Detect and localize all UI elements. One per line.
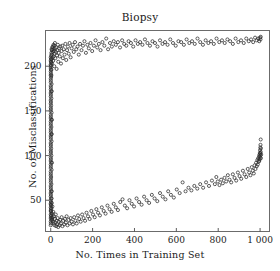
data-point [107,48,110,51]
data-point [76,45,79,48]
data-point [156,45,159,48]
data-point [119,200,122,203]
data-point [110,210,113,213]
data-point [68,41,71,44]
data-point [83,40,86,43]
data-point [87,47,90,50]
data-point [181,181,184,184]
data-point [204,39,207,42]
data-point [213,183,216,186]
data-point [169,193,172,196]
data-point [230,181,233,184]
data-point [130,202,133,205]
data-point [249,174,252,177]
data-point [175,188,178,191]
data-point [121,39,124,42]
data-point [201,43,204,46]
data-point [66,49,69,52]
data-point [196,37,199,40]
axis-ticks-layer [46,66,261,231]
data-point [187,186,190,189]
data-point [99,49,102,52]
data-point [98,214,101,217]
data-point [216,180,219,183]
data-point [84,51,87,54]
data-point [95,208,98,211]
data-point [250,166,253,169]
data-point [65,215,68,218]
series-upper-branch [49,35,262,77]
data-point [199,183,202,186]
data-point [158,192,161,195]
y-axis-label: No. of Misclassifications [27,32,38,222]
data-point [196,187,199,190]
data-point [141,43,144,46]
x-tick-label: 600 [168,235,185,245]
data-point [231,173,234,176]
data-point [163,41,166,44]
data-point [229,40,232,43]
data-point [223,176,226,179]
data-point [121,198,124,201]
data-point [134,39,137,42]
data-point [65,58,68,61]
data-point [167,190,170,193]
data-point [60,216,63,219]
data-point [69,217,72,220]
data-point [145,199,148,202]
data-point [72,50,75,53]
data-point [116,209,119,212]
data-point [66,45,69,48]
data-point [86,43,89,46]
data-point [153,41,156,44]
x-tick-label: 400 [126,235,143,245]
data-point [125,44,128,47]
data-point [143,195,146,198]
data-point [101,41,104,44]
series-lower-branch [49,138,262,229]
data-point [241,169,244,172]
data-point [62,48,65,51]
data-point [110,45,113,48]
data-point [100,206,103,209]
data-point [245,175,248,178]
data-point [118,46,121,49]
data-point [112,40,115,43]
data-point [70,47,73,50]
data-point [129,41,132,44]
data-point [90,209,93,212]
data-point [242,41,245,44]
data-point [96,46,99,49]
data-point [84,219,87,222]
data-point [245,37,248,40]
data-point [59,62,62,65]
data-point [221,182,224,185]
data-point [76,214,79,217]
x-tick-label: 200 [84,235,101,245]
data-point [91,50,94,53]
data-point [128,199,131,202]
data-point [210,40,213,43]
data-point [79,220,82,223]
data-point [103,44,106,47]
data-point [202,186,205,189]
data-point [161,195,164,198]
scatter-plot-canvas: 02004006008001 00050100150200 [0,0,280,271]
data-point [148,201,151,204]
data-point [223,41,226,44]
x-tick-label: 0 [48,235,54,245]
data-point [205,181,208,184]
x-axis-label: No. Times in Training Set [0,249,280,260]
data-point [185,38,188,41]
data-point [93,216,96,219]
data-point [225,180,228,183]
data-point [138,200,141,203]
axis-tick-labels-layer: 02004006008001 00050100150200 [24,61,273,244]
data-point [252,41,255,44]
data-point [215,37,218,40]
data-point [153,197,156,200]
data-point [63,53,66,56]
data-point [174,44,177,47]
x-tick-label: 800 [210,235,227,245]
data-point [166,43,169,46]
